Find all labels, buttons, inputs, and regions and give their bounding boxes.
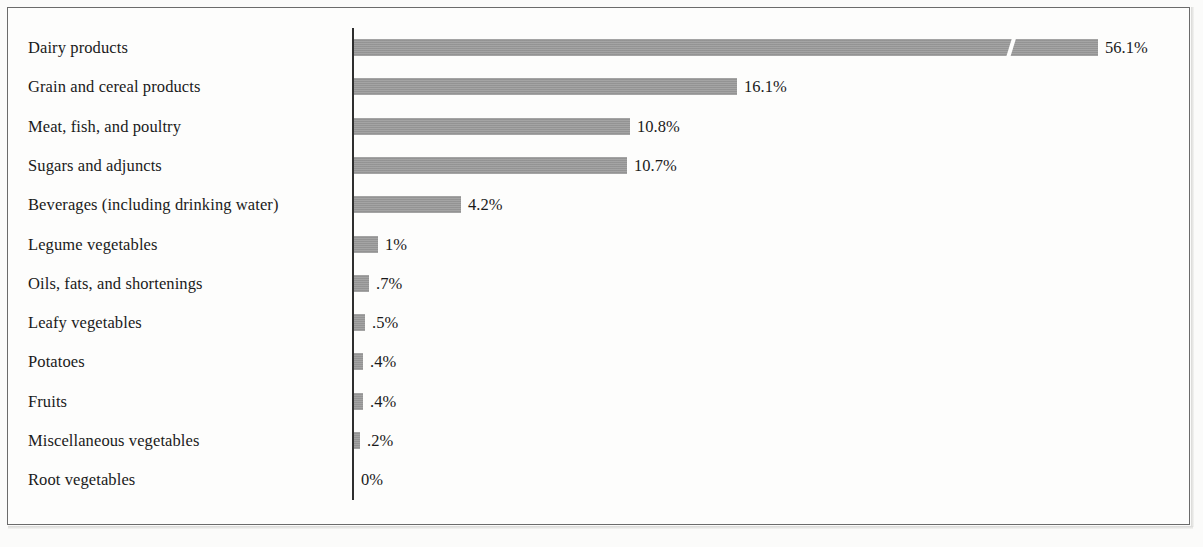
plot-area: Dairy products56.1%Grain and cereal prod…	[0, 0, 1203, 547]
bar-fill	[354, 393, 363, 410]
bar-fill	[354, 236, 378, 253]
bar-track	[354, 393, 363, 410]
category-label: Miscellaneous vegetables	[28, 421, 199, 460]
bar-track	[354, 471, 355, 488]
bar-value-label: 0%	[361, 460, 383, 499]
category-label: Legume vegetables	[28, 225, 158, 264]
bar-track	[354, 39, 1098, 56]
bar-row: Root vegetables0%	[0, 460, 1203, 499]
axis-break-slash-icon	[1005, 38, 1019, 57]
bar-row: Legume vegetables1%	[0, 225, 1203, 264]
bar-track	[354, 314, 365, 331]
bar-track	[354, 353, 363, 370]
bar-fill	[354, 118, 630, 135]
bar-row: Grain and cereal products16.1%	[0, 67, 1203, 106]
bar-value-label: 56.1%	[1105, 28, 1148, 67]
category-label: Leafy vegetables	[28, 303, 142, 342]
bar-track	[354, 157, 627, 174]
bar-row: Dairy products56.1%	[0, 28, 1203, 67]
chart-figure: Dairy products56.1%Grain and cereal prod…	[0, 0, 1203, 547]
bar-track	[354, 78, 737, 95]
category-label: Beverages (including drinking water)	[28, 185, 279, 224]
bar-row: Meat, fish, and poultry10.8%	[0, 107, 1203, 146]
bar-fill	[354, 196, 461, 213]
bar-row: Beverages (including drinking water)4.2%	[0, 185, 1203, 224]
bar-fill	[354, 432, 360, 449]
bar-value-label: 10.7%	[634, 146, 677, 185]
bar-value-label: 16.1%	[744, 67, 787, 106]
bar-value-label: 1%	[385, 225, 407, 264]
bar-fill	[354, 39, 1098, 56]
bar-value-label: .2%	[367, 421, 393, 460]
bar-row: Oils, fats, and shortenings.7%	[0, 264, 1203, 303]
bar-value-label: .4%	[370, 342, 396, 381]
bar-fill	[354, 314, 365, 331]
bar-value-label: 10.8%	[637, 107, 680, 146]
bar-row: Potatoes.4%	[0, 342, 1203, 381]
bar-row: Sugars and adjuncts10.7%	[0, 146, 1203, 185]
bar-value-label: 4.2%	[468, 185, 502, 224]
category-label: Potatoes	[28, 342, 85, 381]
bar-row: Leafy vegetables.5%	[0, 303, 1203, 342]
bar-track	[354, 118, 630, 135]
bar-value-label: .5%	[372, 303, 398, 342]
bar-fill	[354, 275, 369, 292]
bar-row: Fruits.4%	[0, 382, 1203, 421]
category-label: Sugars and adjuncts	[28, 146, 162, 185]
bar-track	[354, 236, 378, 253]
bar-fill	[354, 157, 627, 174]
bar-fill	[354, 78, 737, 95]
bar-fill	[354, 353, 363, 370]
category-label: Fruits	[28, 382, 67, 421]
bar-track	[354, 275, 369, 292]
category-label: Root vegetables	[28, 460, 135, 499]
bar-track	[354, 432, 360, 449]
category-label: Grain and cereal products	[28, 67, 200, 106]
bar-value-label: .4%	[370, 382, 396, 421]
bar-value-label: .7%	[376, 264, 402, 303]
category-label: Dairy products	[28, 28, 128, 67]
category-label: Oils, fats, and shortenings	[28, 264, 203, 303]
bar-track	[354, 196, 461, 213]
bar-row: Miscellaneous vegetables.2%	[0, 421, 1203, 460]
category-label: Meat, fish, and poultry	[28, 107, 181, 146]
